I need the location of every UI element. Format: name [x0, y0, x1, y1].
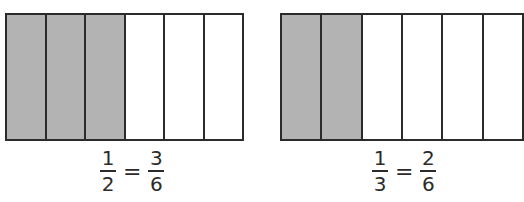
numerator: 1 — [374, 147, 387, 169]
denominator: 6 — [150, 173, 163, 195]
denominator: 2 — [102, 173, 115, 195]
equation-one-half-equals-three-sixths: 1 2 = 3 6 — [97, 147, 167, 195]
numerator: 1 — [102, 147, 115, 169]
fraction-model-thirds — [280, 13, 524, 141]
numerator: 2 — [422, 147, 435, 169]
fraction-model-halves — [5, 13, 244, 141]
denominator: 3 — [374, 173, 387, 195]
unshaded-part — [484, 15, 522, 139]
unshaded-part — [165, 15, 205, 139]
fraction-right: 2 6 — [420, 147, 436, 195]
unshaded-part — [403, 15, 443, 139]
fraction-left: 1 2 — [100, 147, 116, 195]
shaded-part — [322, 15, 362, 139]
numerator: 3 — [150, 147, 163, 169]
shaded-part — [47, 15, 87, 139]
equals-sign: = — [395, 159, 413, 184]
equals-sign: = — [123, 159, 141, 184]
unshaded-part — [443, 15, 483, 139]
shaded-part — [86, 15, 126, 139]
shaded-part — [282, 15, 322, 139]
unshaded-part — [126, 15, 166, 139]
fraction-left: 1 3 — [372, 147, 388, 195]
fraction-right: 3 6 — [148, 147, 164, 195]
unshaded-part — [205, 15, 243, 139]
equation-one-third-equals-two-sixths: 1 3 = 2 6 — [369, 147, 439, 195]
shaded-part — [7, 15, 47, 139]
denominator: 6 — [422, 173, 435, 195]
unshaded-part — [363, 15, 403, 139]
